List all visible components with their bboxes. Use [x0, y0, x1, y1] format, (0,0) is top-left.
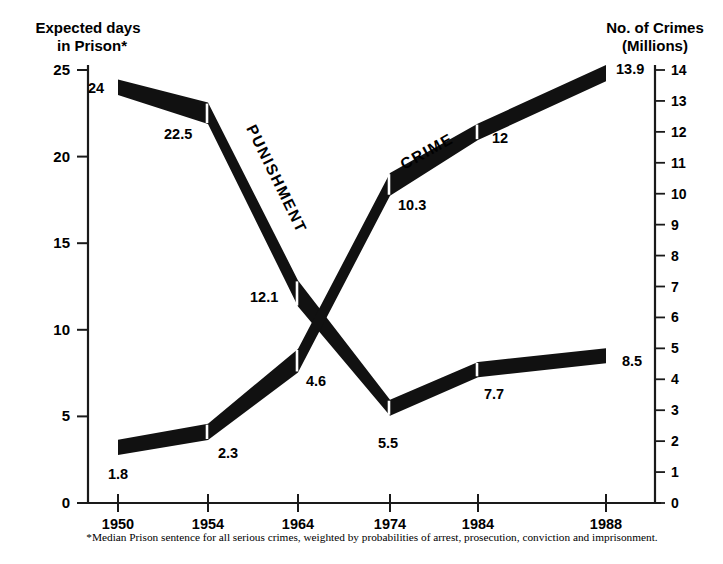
right-tick-label: 5 — [671, 340, 679, 356]
data-label-crime: 13.9 — [616, 61, 644, 77]
x-tick-label: 1964 — [282, 516, 314, 532]
data-label-crime: 10.3 — [398, 197, 426, 213]
right-tick-label: 7 — [671, 279, 679, 295]
series-layer — [118, 65, 606, 455]
data-label-punishment: 7.7 — [484, 386, 504, 402]
right-tick-label: 8 — [671, 248, 679, 264]
right-tick-label: 12 — [671, 124, 687, 140]
left-axis-ticks: 0510152025 — [53, 61, 88, 511]
right-tick-label: 0 — [671, 495, 679, 511]
x-axis-ticks: 195019541964197419841988 — [102, 494, 622, 532]
crime-vs-punishment-chart: Expected days in Prison* No. of Crimes (… — [0, 0, 723, 564]
data-label-crime: 4.6 — [306, 373, 326, 389]
x-tick-label: 1954 — [192, 516, 224, 532]
right-tick-label: 13 — [671, 93, 687, 109]
data-label-crime: 2.3 — [218, 445, 238, 461]
data-label-punishment: 22.5 — [164, 126, 192, 142]
right-tick-label: 2 — [671, 433, 679, 449]
data-label-crime: 1.8 — [108, 466, 128, 482]
right-axis-title-line2: (Millions) — [622, 37, 688, 54]
right-tick-label: 14 — [671, 62, 687, 78]
series-crime — [118, 65, 606, 455]
right-axis-ticks: 01234567891011121314 — [655, 62, 687, 511]
series-label-punishment: PUNISHMENT — [243, 122, 310, 236]
left-tick-label: 0 — [62, 494, 70, 511]
left-tick-label: 20 — [53, 148, 70, 165]
x-tick-label: 1988 — [590, 516, 622, 532]
left-tick-label: 15 — [53, 234, 70, 251]
data-label-crime: 12 — [492, 130, 508, 146]
right-tick-label: 1 — [671, 464, 679, 480]
right-tick-label: 11 — [671, 155, 686, 171]
x-tick-label: 1950 — [102, 516, 134, 532]
right-tick-label: 4 — [671, 371, 679, 387]
x-tick-label: 1984 — [462, 516, 494, 532]
left-axis-title-line2: in Prison* — [57, 37, 127, 54]
right-axis-title-line1: No. of Crimes — [606, 19, 704, 36]
right-tick-label: 3 — [671, 402, 679, 418]
data-label-punishment: 8.5 — [622, 353, 642, 369]
right-tick-label: 9 — [671, 217, 679, 233]
left-axis-title-line1: Expected days — [35, 19, 140, 36]
data-label-punishment: 5.5 — [378, 435, 398, 451]
left-tick-label: 10 — [53, 321, 70, 338]
x-tick-label: 1974 — [374, 516, 406, 532]
left-tick-label: 25 — [53, 61, 70, 78]
right-tick-label: 10 — [671, 186, 687, 202]
data-labels-layer: 2422.512.15.57.78.51.82.34.610.31213.9 — [88, 61, 644, 482]
right-tick-label: 6 — [671, 309, 679, 325]
chart-container: Expected days in Prison* No. of Crimes (… — [0, 0, 723, 564]
footnote: *Median Prison sentence for all serious … — [86, 531, 657, 543]
left-tick-label: 5 — [62, 407, 70, 424]
data-label-punishment: 24 — [88, 80, 104, 96]
data-label-punishment: 12.1 — [250, 289, 278, 305]
series-band — [118, 65, 606, 455]
